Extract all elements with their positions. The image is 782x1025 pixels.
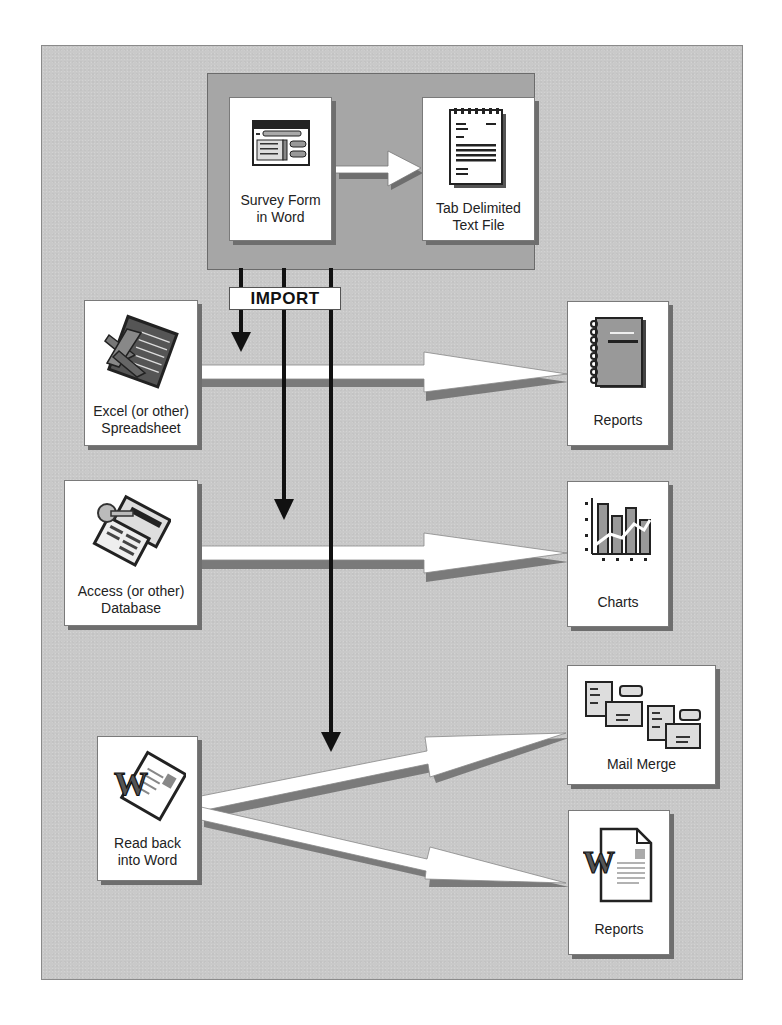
- arrow-access-to-charts: [197, 533, 568, 582]
- word-icon: W: [98, 749, 197, 825]
- label-line-2: Database: [65, 600, 197, 617]
- svg-text:W: W: [114, 765, 148, 802]
- chart-icon: [568, 490, 668, 568]
- arrow-survey-to-textfile: [332, 151, 423, 190]
- card-label: Survey Form in Word: [230, 192, 331, 226]
- label-line-2: Spreadsheet: [85, 420, 197, 437]
- form-window-icon: [230, 120, 331, 166]
- card-label: Read back into Word: [98, 835, 197, 869]
- card-label: Mail Merge: [568, 756, 715, 773]
- excel-icon: [85, 311, 197, 391]
- label-line-2: into Word: [98, 852, 197, 869]
- card-label: Charts: [568, 594, 668, 611]
- arrow-word-to-reports2: [201, 807, 569, 887]
- card-label: Tab Delimited Text File: [423, 200, 534, 234]
- card-label: Excel (or other) Spreadsheet: [85, 403, 197, 437]
- card-label: Reports: [569, 921, 669, 938]
- card-read-back-into-word[interactable]: W Read back into Word: [97, 736, 198, 881]
- label-line-1: Access (or other): [65, 583, 197, 600]
- label-line-2: Text File: [423, 217, 534, 234]
- import-label: IMPORT: [229, 287, 341, 310]
- label-line-1: Survey Form: [230, 192, 331, 209]
- card-access-database[interactable]: Access (or other) Database: [64, 480, 198, 626]
- arrow-excel-to-reports: [197, 352, 568, 401]
- access-icon: [65, 491, 197, 571]
- card-reports-word-document[interactable]: W Reports: [568, 810, 670, 955]
- card-label: Access (or other) Database: [65, 583, 197, 617]
- label-line-1: Read back: [98, 835, 197, 852]
- arrow-word-to-mailmerge: [201, 733, 569, 819]
- label-line-2: in Word: [230, 209, 331, 226]
- notepad-icon: [423, 108, 534, 190]
- card-charts[interactable]: Charts: [567, 481, 669, 627]
- import-arrow-to-word: [321, 268, 341, 752]
- card-label: Reports: [568, 412, 668, 429]
- card-survey-form[interactable]: Survey Form in Word: [229, 97, 332, 241]
- label-line-1: Tab Delimited: [423, 200, 534, 217]
- import-arrow-to-excel: [231, 268, 251, 352]
- word-document-icon: W: [569, 827, 669, 903]
- card-excel-spreadsheet[interactable]: Excel (or other) Spreadsheet: [84, 300, 198, 446]
- card-reports-notebook[interactable]: Reports: [567, 301, 669, 446]
- card-tab-delimited-text-file[interactable]: Tab Delimited Text File: [422, 97, 535, 241]
- envelopes-icon: [568, 678, 715, 750]
- notebook-icon: [568, 316, 668, 392]
- card-mail-merge[interactable]: Mail Merge: [567, 665, 716, 785]
- svg-text:W: W: [583, 844, 615, 880]
- label-line-1: Excel (or other): [85, 403, 197, 420]
